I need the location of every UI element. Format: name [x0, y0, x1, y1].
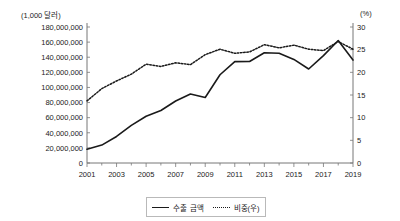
legend-label-export-amount: 수출 금액 — [173, 202, 203, 213]
legend-solid-line-icon — [152, 207, 169, 208]
left-axis: 020,000,00040,000,00060,000,00080,000,00… — [41, 23, 90, 168]
svg-text:0: 0 — [79, 159, 83, 168]
svg-text:25: 25 — [357, 45, 365, 54]
x-axis: 2001200320052007200920112013201520172019 — [79, 163, 362, 179]
svg-text:2013: 2013 — [256, 170, 273, 179]
svg-text:2019: 2019 — [345, 170, 362, 179]
svg-text:0: 0 — [357, 159, 361, 168]
export-share-line-chart: (1,000 달러) (%) 020,000,00040,000,00060,0… — [0, 0, 400, 221]
svg-text:100,000,000: 100,000,000 — [41, 83, 83, 92]
svg-text:10: 10 — [357, 113, 365, 122]
series-line-2 — [87, 42, 353, 101]
svg-text:180,000,000: 180,000,000 — [41, 23, 83, 32]
svg-text:40,000,000: 40,000,000 — [45, 129, 83, 138]
right-axis: 051015202530 — [350, 23, 365, 168]
svg-text:140,000,000: 140,000,000 — [41, 53, 83, 62]
svg-text:20,000,000: 20,000,000 — [45, 144, 83, 153]
plot-area: 020,000,00040,000,00060,000,00080,000,00… — [0, 0, 400, 221]
svg-text:2015: 2015 — [286, 170, 303, 179]
svg-text:60,000,000: 60,000,000 — [45, 113, 83, 122]
chart-svg: 020,000,00040,000,00060,000,00080,000,00… — [0, 0, 400, 221]
svg-text:2011: 2011 — [227, 170, 243, 179]
svg-text:30: 30 — [357, 23, 365, 32]
svg-text:80,000,000: 80,000,000 — [45, 98, 83, 107]
svg-text:2003: 2003 — [108, 170, 125, 179]
svg-text:160,000,000: 160,000,000 — [41, 38, 83, 47]
series-line-1 — [87, 41, 353, 150]
legend-item-dotted: 비중(우) — [213, 202, 260, 213]
svg-text:15: 15 — [357, 91, 365, 100]
svg-text:2007: 2007 — [167, 170, 184, 179]
chart-legend: 수출 금액 비중(우) — [146, 197, 266, 217]
svg-text:120,000,000: 120,000,000 — [41, 68, 83, 77]
svg-text:5: 5 — [357, 136, 361, 145]
legend-dotted-line-icon — [213, 207, 230, 208]
svg-text:2017: 2017 — [315, 170, 332, 179]
svg-text:20: 20 — [357, 68, 365, 77]
legend-label-share: 비중(우) — [234, 202, 260, 213]
legend-item-solid: 수출 금액 — [152, 202, 203, 213]
data-series — [87, 41, 353, 150]
svg-text:2001: 2001 — [79, 170, 96, 179]
svg-text:2009: 2009 — [197, 170, 214, 179]
svg-text:2005: 2005 — [138, 170, 155, 179]
